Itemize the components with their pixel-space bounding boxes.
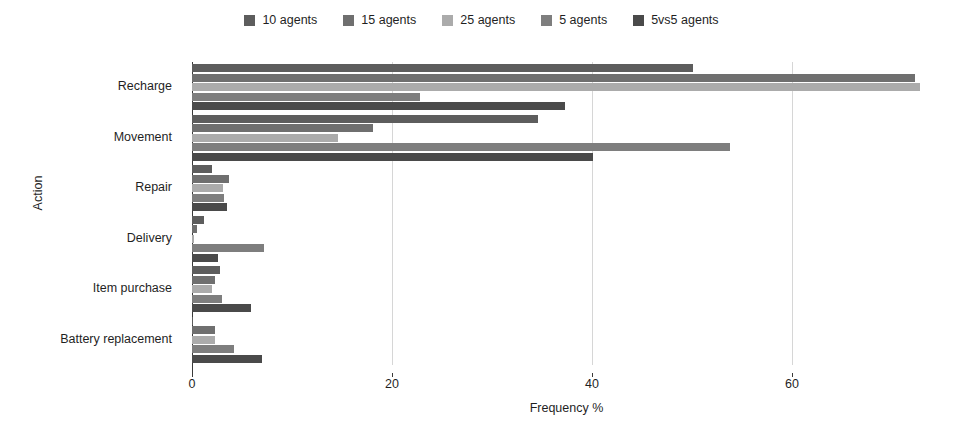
legend-swatch-icon (244, 15, 255, 26)
y-tick-label: Item purchase (0, 281, 182, 295)
y-tick-label-text: Delivery (127, 231, 182, 245)
legend-swatch-icon (633, 15, 644, 26)
bar (192, 254, 218, 262)
bar (192, 304, 251, 312)
legend-swatch-icon (541, 15, 552, 26)
y-tick-label-text: Movement (114, 130, 182, 144)
y-tick-label-text: Recharge (118, 79, 182, 93)
bar (192, 216, 204, 224)
bar-group (192, 264, 913, 315)
bar (192, 83, 920, 91)
x-axis-label-text: Frequency % (530, 401, 604, 415)
bar (192, 124, 373, 132)
bar (192, 143, 730, 151)
x-tick-label: 40 (585, 377, 599, 391)
chart-legend: 10 agents15 agents25 agents5 agents5vs5 … (0, 14, 963, 26)
bar (192, 317, 193, 325)
legend-item-label: 15 agents (361, 14, 416, 26)
bar-group (192, 214, 913, 265)
legend-item[interactable]: 10 agents (244, 14, 317, 26)
bar (192, 153, 593, 161)
y-tick-label-text: Repair (135, 180, 182, 194)
bar (192, 336, 215, 344)
bar (192, 326, 215, 334)
bar (192, 355, 262, 363)
bar (192, 74, 915, 82)
bar-chart-figure: 10 agents15 agents25 agents5 agents5vs5 … (0, 0, 963, 441)
bar (192, 276, 215, 284)
bar (192, 244, 264, 252)
legend-item-label: 5 agents (559, 14, 607, 26)
bar (192, 93, 420, 101)
bar (192, 266, 220, 274)
y-tick-label: Battery replacement (0, 332, 182, 346)
legend-item[interactable]: 5vs5 agents (633, 14, 718, 26)
bar (192, 194, 224, 202)
legend-item[interactable]: 25 agents (442, 14, 515, 26)
bar (192, 295, 222, 303)
x-axis-label: Frequency % (0, 401, 963, 415)
legend-item[interactable]: 5 agents (541, 14, 607, 26)
bar-group (192, 62, 913, 113)
bar (192, 235, 194, 243)
y-tick-label: Repair (0, 180, 182, 194)
bar (192, 115, 538, 123)
legend-swatch-icon (442, 15, 453, 26)
bar (192, 134, 338, 142)
legend-item[interactable]: 15 agents (343, 14, 416, 26)
bar (192, 203, 227, 211)
x-tick-label: 60 (785, 377, 799, 391)
bar (192, 64, 693, 72)
y-tick-label-text: Item purchase (93, 281, 182, 295)
bar (192, 102, 565, 110)
legend-swatch-icon (343, 15, 354, 26)
y-tick-label: Recharge (0, 79, 182, 93)
bar (192, 184, 223, 192)
bar (192, 345, 234, 353)
legend-item-label: 10 agents (262, 14, 317, 26)
bar-group (192, 315, 913, 366)
y-tick-label-text: Battery replacement (60, 332, 182, 346)
legend-item-label: 25 agents (460, 14, 515, 26)
x-tick-label: 0 (189, 377, 196, 391)
bar-group (192, 163, 913, 214)
y-tick-label: Movement (0, 130, 182, 144)
x-tick-label: 20 (385, 377, 399, 391)
bar (192, 175, 229, 183)
bar-group (192, 113, 913, 164)
y-tick-label: Delivery (0, 231, 182, 245)
legend-item-label: 5vs5 agents (651, 14, 718, 26)
bar (192, 225, 197, 233)
plot-area (192, 62, 913, 365)
bar (192, 165, 212, 173)
bar (192, 285, 212, 293)
